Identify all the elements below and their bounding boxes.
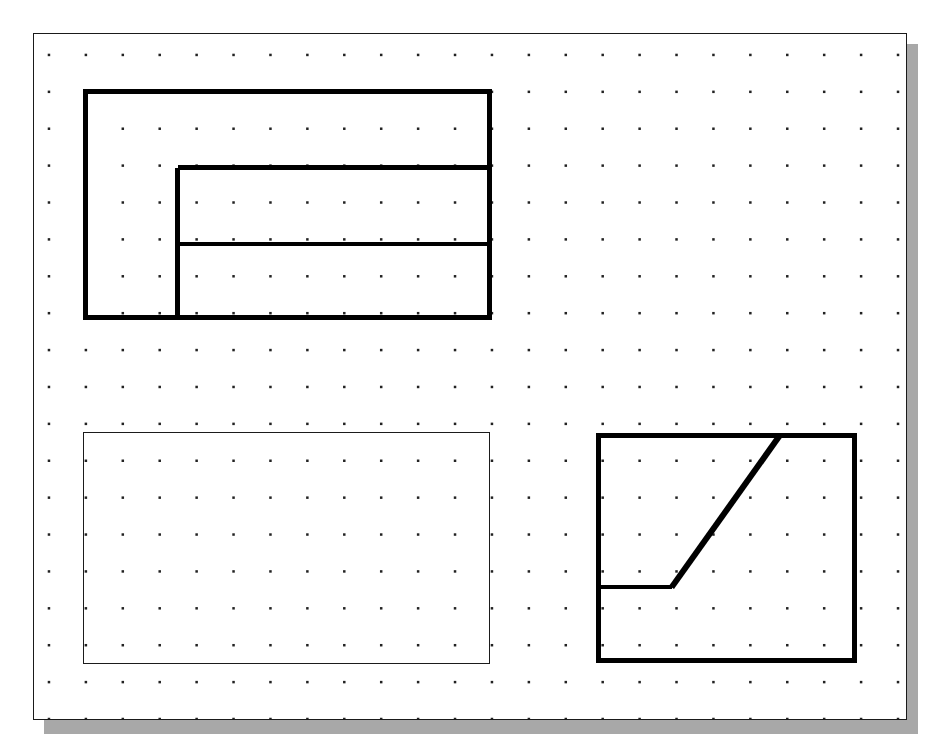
app-root: Drawing Canvas: [0, 0, 944, 752]
ramped-rectangle[interactable]: [596, 435, 855, 661]
plain-rectangle[interactable]: [83, 432, 489, 663]
notched-rectangle[interactable]: [85, 91, 492, 320]
notched-rectangle-outline[interactable]: [85, 91, 489, 317]
plain-rectangle-outline[interactable]: [83, 432, 489, 663]
diagonal-ramp[interactable]: [672, 435, 781, 588]
ramped-rectangle-outline[interactable]: [598, 435, 854, 660]
drawing-sheet[interactable]: [33, 33, 907, 720]
page-title: Drawing Canvas: [0, 21, 1, 22]
shapes-layer[interactable]: [34, 34, 906, 719]
